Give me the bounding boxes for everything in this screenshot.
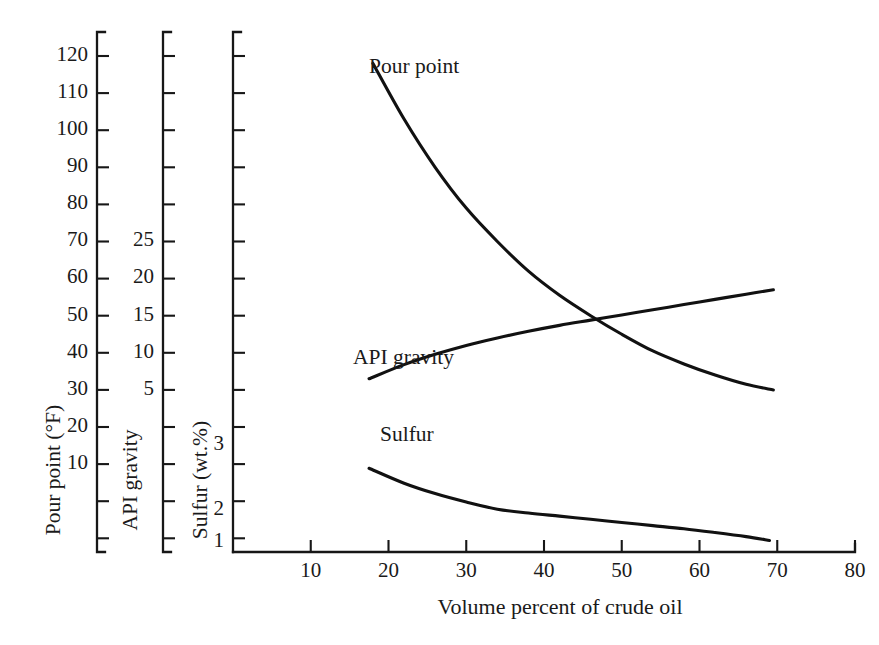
pour-point-axis-line xyxy=(97,32,105,552)
x-axis: 1020304050607080 Volume percent of crude… xyxy=(233,540,866,619)
tick-label: 80 xyxy=(67,190,88,214)
tick-label: 120 xyxy=(57,42,89,66)
tick-label: 100 xyxy=(57,116,89,140)
pour-point-axis: 120110100908070605040302010 Pour point (… xyxy=(41,32,109,552)
tick-label: 30 xyxy=(67,376,88,400)
tick-label: 5 xyxy=(144,376,155,400)
tick-label: 20 xyxy=(133,264,154,288)
tick-label: 30 xyxy=(456,558,477,582)
tick-label: 50 xyxy=(611,558,632,582)
tick-label: 20 xyxy=(67,413,88,437)
series-label-sulfur: Sulfur xyxy=(380,422,434,446)
tick-label: 60 xyxy=(67,264,88,288)
data-series-group xyxy=(369,63,773,540)
api-gravity-axis-title: API gravity xyxy=(118,429,142,530)
tick-label: 70 xyxy=(67,227,88,251)
api-gravity-tick-marks xyxy=(163,56,175,538)
tick-label: 90 xyxy=(67,153,88,177)
sulfur-tick-labels: 321 xyxy=(214,431,225,551)
tick-label: 70 xyxy=(767,558,788,582)
sulfur-tick-marks xyxy=(233,56,245,538)
pour-point-tick-marks xyxy=(97,56,109,538)
sulfur-axis-title: Sulfur (wt.%) xyxy=(188,421,212,539)
tick-label: 3 xyxy=(214,431,225,455)
sulfur-curve xyxy=(369,468,769,540)
x-axis-tick-marks xyxy=(311,540,855,552)
multi-axis-line-chart: 120110100908070605040302010 Pour point (… xyxy=(0,0,879,645)
pour-point-axis-title: Pour point (°F) xyxy=(41,405,65,535)
api-gravity-axis: 252015105 API gravity xyxy=(118,32,175,552)
x-axis-title: Volume percent of crude oil xyxy=(437,594,682,619)
chart-figure: 120110100908070605040302010 Pour point (… xyxy=(0,0,879,645)
tick-label: 40 xyxy=(67,339,88,363)
tick-label: 15 xyxy=(133,302,154,326)
tick-label: 60 xyxy=(689,558,710,582)
sulfur-axis-line xyxy=(233,32,241,552)
pour-point-curve xyxy=(373,63,773,389)
tick-label: 50 xyxy=(67,302,88,326)
tick-label: 80 xyxy=(845,558,866,582)
series-label-api-gravity: API gravity xyxy=(353,345,454,369)
tick-label: 2 xyxy=(214,496,225,520)
api-gravity-axis-line xyxy=(163,32,171,552)
tick-label: 20 xyxy=(378,558,399,582)
tick-label: 40 xyxy=(534,558,555,582)
tick-label: 1 xyxy=(214,528,225,552)
api-gravity-tick-labels: 252015105 xyxy=(133,227,154,399)
series-label-pour-point: Pour point xyxy=(369,54,459,78)
tick-label: 25 xyxy=(133,227,154,251)
tick-label: 110 xyxy=(57,79,88,103)
sulfur-axis: 321 Sulfur (wt.%) xyxy=(188,32,245,552)
x-axis-tick-labels: 1020304050607080 xyxy=(300,558,865,582)
tick-label: 10 xyxy=(67,450,88,474)
tick-label: 10 xyxy=(133,339,154,363)
tick-label: 10 xyxy=(300,558,321,582)
